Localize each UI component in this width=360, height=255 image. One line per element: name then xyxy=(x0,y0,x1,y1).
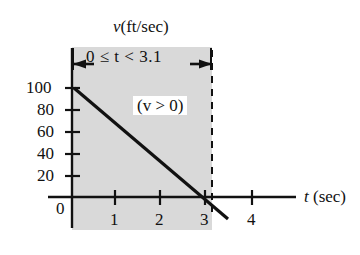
range-annotation-label: 0 ≤ t < 3.1 xyxy=(86,48,162,65)
y-axis-title: v(ft/sec) xyxy=(113,18,169,35)
x-axis-title-var: t xyxy=(304,187,309,206)
x-tick-label-2: 2 xyxy=(155,211,164,228)
y-tick-label-100: 100 xyxy=(26,79,52,96)
x-tick-label-3: 3 xyxy=(200,211,209,228)
y-tick-label-60: 60 xyxy=(37,123,54,140)
positive-velocity-shaded-region xyxy=(72,47,212,230)
chart-canvas xyxy=(0,0,360,255)
x-axis-title-unit: (sec) xyxy=(313,187,346,206)
y-axis-title-var: v xyxy=(113,17,121,36)
y-tick-label-80: 80 xyxy=(37,101,54,118)
x-axis-title: t (sec) xyxy=(304,188,346,205)
y-tick-label-40: 40 xyxy=(37,145,54,162)
sign-annotation-label: (v > 0) xyxy=(133,96,187,115)
velocity-time-chart: v(ft/sec) 0 ≤ t < 3.1 (v > 0) 100 80 60 … xyxy=(0,0,360,255)
y-tick-label-20: 20 xyxy=(37,167,54,184)
origin-label-0: 0 xyxy=(56,200,65,217)
x-tick-label-1: 1 xyxy=(110,211,119,228)
x-tick-label-4: 4 xyxy=(247,211,256,228)
y-axis-title-unit: (ft/sec) xyxy=(121,17,169,36)
